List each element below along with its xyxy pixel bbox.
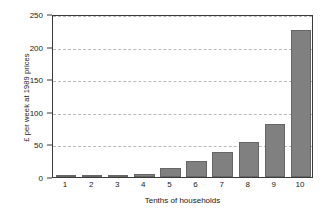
bar xyxy=(134,174,154,177)
plot-area xyxy=(52,15,313,178)
x-tick-label: 3 xyxy=(115,180,119,189)
bar-chart-figure: £ per week at 1989 prices 05010015020025… xyxy=(0,0,330,221)
x-tick-label: 10 xyxy=(295,180,304,189)
bar xyxy=(212,152,232,177)
bar xyxy=(265,124,285,177)
x-tick-label: 7 xyxy=(219,180,223,189)
y-tick-label: 250 xyxy=(30,11,43,20)
x-axis-title: Tenths of households xyxy=(52,196,313,205)
bar xyxy=(186,161,206,177)
x-axis-ticks: 12345678910 xyxy=(52,180,313,194)
y-axis-ticks: 050100150200250 xyxy=(0,15,52,178)
x-tick-label: 8 xyxy=(246,180,250,189)
bar xyxy=(291,30,311,177)
x-tick-label: 1 xyxy=(63,180,67,189)
bar xyxy=(160,168,180,177)
x-tick-label: 6 xyxy=(193,180,197,189)
bar xyxy=(239,142,259,177)
x-tick-label: 5 xyxy=(167,180,171,189)
x-tick-label: 2 xyxy=(89,180,93,189)
y-tick-label: 150 xyxy=(30,76,43,85)
bar xyxy=(82,175,102,177)
bar xyxy=(108,175,128,177)
bar xyxy=(56,175,76,177)
y-tick-label: 50 xyxy=(34,141,43,150)
x-tick-label: 4 xyxy=(141,180,145,189)
bars-layer xyxy=(53,16,312,177)
y-tick-label: 0 xyxy=(39,174,43,183)
x-tick-label: 9 xyxy=(272,180,276,189)
y-tick-label: 100 xyxy=(30,108,43,117)
y-tick-label: 200 xyxy=(30,43,43,52)
